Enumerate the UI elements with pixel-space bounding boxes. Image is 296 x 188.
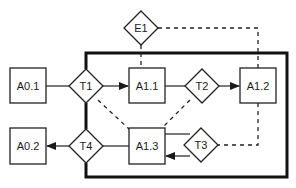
label-t3: T3 — [195, 139, 208, 151]
edge-a1-2-t3 — [218, 103, 258, 145]
label-a0-1: A0.1 — [17, 80, 40, 92]
label-t4: T4 — [80, 140, 93, 152]
label-a1-3: A1.3 — [136, 140, 159, 152]
label-a1-2: A1.2 — [247, 80, 270, 92]
label-a1-1: A1.1 — [136, 80, 159, 92]
petri-net-diagram: A0.1 A0.2 A1.1 A1.2 A1.3 T1 T2 T3 T4 E1 — [0, 0, 296, 188]
label-t1: T1 — [80, 80, 93, 92]
label-t2: T2 — [196, 80, 209, 92]
label-a0-2: A0.2 — [17, 140, 40, 152]
edge-t2-a1-3 — [162, 100, 190, 128]
edge-e1-a1-2 — [158, 28, 258, 68]
edge-t1-a1-3 — [98, 100, 130, 130]
label-e1: E1 — [134, 22, 147, 34]
